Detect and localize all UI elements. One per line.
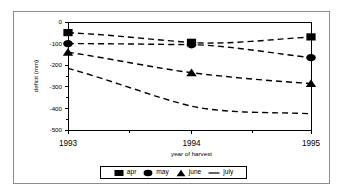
dash-line-marker-icon [208, 169, 220, 177]
x-axis-ticks [68, 130, 311, 134]
y-tick-label-300: -300 [50, 83, 63, 90]
y-tick-label-500: -500 [50, 126, 63, 133]
legend-label-july: july [223, 169, 233, 176]
legend-label-apr: apr [127, 169, 137, 176]
legend-item-may[interactable]: may [143, 169, 168, 177]
series-line-june [68, 52, 311, 83]
circle-marker-icon [143, 169, 153, 177]
square-marker-icon [114, 169, 124, 177]
legend-label-may: may [156, 169, 168, 176]
plot-area: 0 -100 -200 -300 -400 -500 deficit (mm) … [0, 0, 342, 193]
y-tick-label-100: -100 [50, 40, 63, 47]
x-tick-label-1994: 1994 [182, 139, 201, 148]
x-tick-label-1993: 1993 [59, 139, 78, 148]
triangle-marker-icon [176, 169, 186, 177]
x-tick-label-1995: 1995 [302, 139, 321, 148]
legend-label-june: june [189, 169, 201, 176]
legend-item-july[interactable]: july [208, 169, 233, 177]
y-tick-label-0: 0 [59, 18, 63, 25]
chart-figure: 0 -100 -200 -300 -400 -500 deficit (mm) … [0, 0, 342, 193]
y-axis-title: deficit (mm) [32, 60, 39, 92]
y-tick-label-200: -200 [50, 61, 63, 68]
chart-legend: apr may june july [100, 166, 247, 179]
legend-item-apr[interactable]: apr [114, 169, 137, 177]
legend-item-june[interactable]: june [176, 169, 201, 177]
x-axis-title: year of harvest [171, 150, 212, 157]
y-tick-label-400: -400 [50, 105, 63, 112]
